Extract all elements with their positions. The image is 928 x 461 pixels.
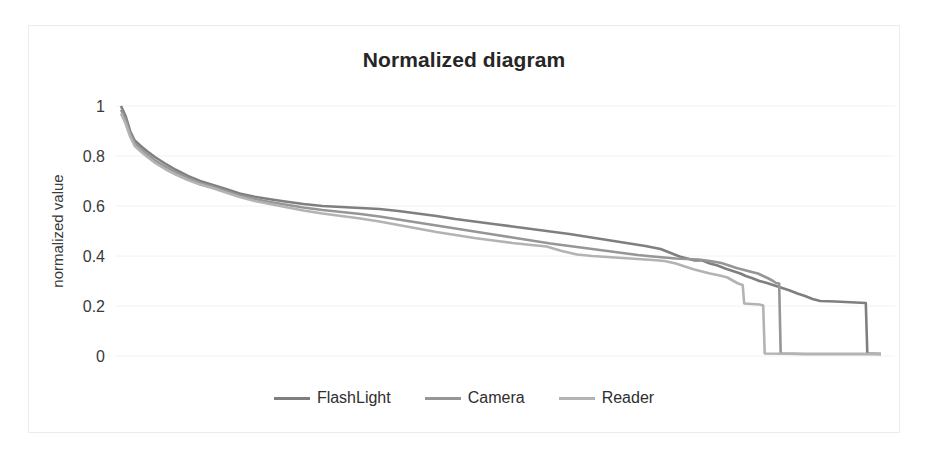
legend-item-flashlight[interactable]: FlashLight xyxy=(274,389,391,407)
series-lines xyxy=(121,106,881,354)
y-axis-tick-labels: 00.20.40.60.81 xyxy=(83,98,105,365)
legend-item-reader[interactable]: Reader xyxy=(559,389,654,407)
series-line-flashlight xyxy=(121,106,881,354)
line-chart-plot: 00.20.40.60.81 normalized value xyxy=(29,26,899,432)
y-axis-title: normalized value xyxy=(49,174,66,287)
legend-label: Camera xyxy=(468,389,525,407)
legend-swatch-icon xyxy=(425,397,461,400)
y-tick-label: 0.4 xyxy=(83,248,105,265)
gridlines xyxy=(115,106,895,356)
legend-label: FlashLight xyxy=(317,389,391,407)
legend-swatch-icon xyxy=(274,397,310,400)
y-tick-label: 0 xyxy=(96,348,105,365)
y-tick-label: 0.8 xyxy=(83,148,105,165)
chart-frame: Normalized diagram 00.20.40.60.81 normal… xyxy=(28,25,900,433)
legend-item-camera[interactable]: Camera xyxy=(425,389,525,407)
chart-legend: FlashLightCameraReader xyxy=(29,389,899,407)
y-tick-label: 0.2 xyxy=(83,298,105,315)
y-axis-label: normalized value xyxy=(49,174,66,287)
y-tick-label: 0.6 xyxy=(83,198,105,215)
series-line-reader xyxy=(121,114,881,355)
series-line-camera xyxy=(121,110,881,354)
legend-label: Reader xyxy=(602,389,654,407)
y-tick-label: 1 xyxy=(96,98,105,115)
legend-swatch-icon xyxy=(559,397,595,400)
